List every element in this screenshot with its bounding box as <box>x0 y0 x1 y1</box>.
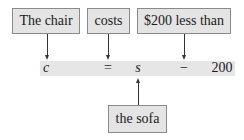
arrow-line-chair <box>47 34 48 55</box>
label-box-costs: costs <box>87 8 130 34</box>
label-text: the sofa <box>116 111 160 127</box>
label-box-the-sofa: the sofa <box>108 105 167 133</box>
label-text: The chair <box>19 13 72 29</box>
label-box-200-less-than: $200 less than <box>137 8 231 34</box>
equation-constant: 200 <box>212 60 233 76</box>
arrow-line-costs <box>108 34 109 55</box>
label-box-the-chair: The chair <box>12 8 80 34</box>
arrow-line-sofa <box>138 83 139 105</box>
label-text: costs <box>95 13 123 29</box>
equation-equals: = <box>104 60 112 76</box>
equation-variable-c: c <box>43 60 49 76</box>
equation-variable-s: s <box>135 60 140 76</box>
arrow-line-less-than <box>184 34 185 55</box>
equation-minus: − <box>180 60 188 76</box>
label-text: $200 less than <box>144 13 224 29</box>
